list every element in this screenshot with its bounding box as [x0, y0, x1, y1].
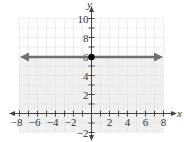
x-tick-label: −6 [29, 116, 41, 128]
x-tick-label: −4 [47, 116, 59, 128]
y-tick-label: 2 [83, 89, 89, 101]
x-tick-label: 6 [143, 116, 149, 128]
y-axis-bottom-arrow-icon [89, 135, 94, 141]
graph: −8−6−4−22468−2246810 x y [0, 0, 184, 142]
y-axis-label: y [86, 0, 92, 10]
x-tick-label: −2 [65, 116, 77, 128]
x-axis-label: x [176, 107, 182, 119]
x-tick-label: 4 [125, 116, 131, 128]
y-tick-label: 8 [83, 32, 89, 44]
y-tick-label: 10 [78, 13, 90, 25]
x-tick-label: −8 [11, 116, 23, 128]
x-tick-label: 2 [107, 116, 113, 128]
y-tick-label: −2 [77, 127, 89, 139]
point-0-6 [88, 54, 94, 60]
x-tick-label: 8 [161, 116, 167, 128]
y-tick-label: 4 [83, 70, 89, 82]
